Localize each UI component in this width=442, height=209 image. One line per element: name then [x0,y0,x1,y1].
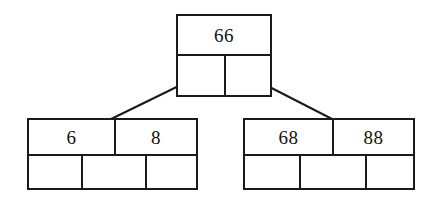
node-pointer-row [29,156,196,190]
pointer-cell [224,56,270,96]
pointer-cell [245,156,299,190]
btree-diagram: 66 6 8 68 88 [0,0,442,209]
node-key-row: 6 8 [29,120,196,156]
node-key-row: 68 88 [245,120,413,156]
btree-node-root: 66 [176,14,272,97]
btree-node-left-child: 6 8 [27,118,198,190]
key-cell: 8 [114,120,196,154]
key-cell: 6 [29,120,114,154]
key-cell: 88 [332,120,413,154]
key-cell: 68 [245,120,332,154]
node-pointer-row [245,156,413,190]
pointer-cell [145,156,196,190]
pointer-cell [81,156,145,190]
pointer-cell [299,156,365,190]
pointer-cell [365,156,413,190]
node-pointer-row [178,56,270,96]
btree-node-right-child: 68 88 [243,118,415,190]
pointer-cell [178,56,224,96]
pointer-cell [29,156,81,190]
node-key-row: 66 [178,16,270,56]
key-cell: 66 [178,16,270,54]
